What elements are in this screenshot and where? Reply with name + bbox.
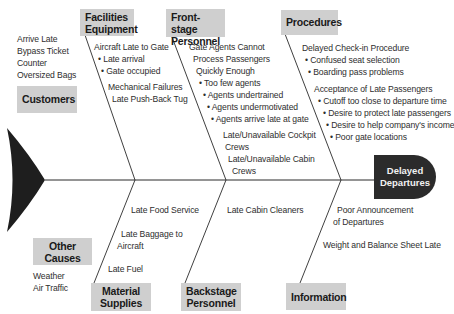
cause-text: Aircraft Late to Gate — [94, 42, 169, 52]
effect-delayed-departures: Delayed Departures — [374, 155, 436, 199]
category-label: Equipment — [85, 23, 129, 35]
cause-text: • Late arrival — [98, 54, 145, 64]
category-label: Facilities — [85, 11, 129, 23]
cause-text: • Desire to protect late passengers — [323, 108, 451, 118]
cause-text: Arrive Late — [17, 34, 57, 44]
category-label: Personnel — [186, 297, 236, 309]
cause-text: Oversized Bags — [17, 70, 76, 80]
category-label: Supplies — [96, 297, 146, 309]
category-label: Causes — [38, 252, 87, 264]
cause-text: • Poor gate locations — [330, 132, 407, 142]
bone-backstage — [185, 180, 226, 283]
fish-tail-icon — [7, 128, 45, 232]
cause-text: Aircraft — [117, 241, 143, 251]
cause-text: Late/Unavailable Cockpit — [223, 130, 316, 140]
cause-text: Late Fuel — [108, 264, 143, 274]
cause-text: Quickly Enough — [196, 66, 255, 76]
cause-text: Delayed Check-in Procedure — [302, 43, 409, 53]
cause-text: Gate Agents Cannot — [189, 42, 265, 52]
category-label: Backstage — [186, 285, 236, 297]
cause-text: • Confused seat selection — [305, 55, 400, 65]
category-information: Information — [286, 283, 346, 310]
cause-text: Crews — [225, 142, 249, 152]
bone-information — [300, 180, 341, 283]
cause-text: Late Push-Back Tug — [112, 94, 188, 104]
cause-text: Acceptance of Late Passengers — [314, 84, 432, 94]
cause-text: Weather — [33, 271, 65, 281]
category-label: Front-stage — [171, 11, 220, 35]
category-label: Customers — [22, 93, 72, 105]
cause-text: Poor Announcement — [337, 205, 413, 215]
cause-text: Air Traffic — [33, 283, 68, 293]
cause-text: Bypass Ticket — [17, 46, 69, 56]
cause-text: Weight and Balance Sheet Late — [323, 240, 441, 250]
category-backstage-personnel: Backstage Personnel — [181, 283, 241, 311]
effect-label: Departures — [380, 177, 430, 189]
category-other-causes: Other Causes — [33, 238, 92, 265]
category-customers: Customers — [17, 86, 77, 113]
category-procedures: Procedures — [281, 10, 338, 35]
category-material-supplies: Material Supplies — [91, 283, 151, 311]
cause-text: Counter — [17, 58, 47, 68]
cause-text: Late Food Service — [131, 205, 199, 215]
cause-text: • Cutoff too close to departure time — [318, 96, 447, 106]
cause-text: Late Baggage to — [121, 229, 183, 239]
cause-text: • Agents undermotivated — [207, 102, 298, 112]
cause-text: • Too few agents — [199, 78, 260, 88]
category-facilities-equipment: Facilities Equipment — [80, 9, 134, 36]
cause-text: Late Cabin Cleaners — [227, 205, 303, 215]
cause-text: Mechanical Failures — [108, 82, 183, 92]
category-label: Information — [291, 291, 341, 303]
category-label: Procedures — [286, 16, 333, 28]
cause-text: • Gate occupied — [101, 66, 160, 76]
cause-text: Late/Unavailable Cabin — [228, 154, 315, 164]
effect-label: Delayed — [380, 165, 430, 177]
cause-text: Crews — [232, 166, 256, 176]
cause-text: • Desire to help company's income — [326, 120, 454, 130]
category-frontstage-personnel: Front-stage Personnel — [166, 9, 225, 37]
cause-text: • Agents undertrained — [203, 90, 283, 100]
cause-text: • Boarding pass problems — [308, 67, 404, 77]
cause-text: • Agents arrive late at gate — [211, 114, 309, 124]
cause-text: Process Passengers — [193, 54, 270, 64]
category-label: Material — [96, 285, 146, 297]
cause-text: of Departures — [333, 217, 384, 227]
category-label: Other — [38, 240, 87, 252]
